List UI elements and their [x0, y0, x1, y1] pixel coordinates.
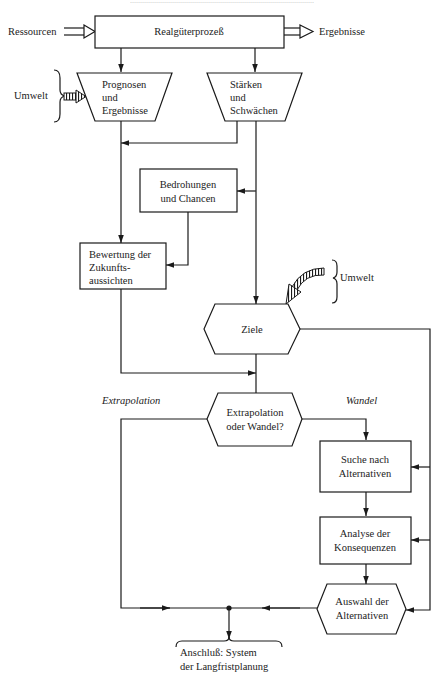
realgueterprozess-label: Realgüterprozeß [154, 26, 223, 37]
decision-shape [207, 393, 302, 446]
output-line1: Anschluß: System [180, 647, 257, 658]
curved-hatched-arrow-icon [286, 268, 324, 304]
analyse-box [320, 517, 411, 564]
output-double-arrow-icon [284, 25, 313, 38]
auswahl-shape [317, 584, 406, 634]
ergebnisse-label: Ergebnisse [319, 26, 365, 37]
ressourcen-label: Ressourcen [8, 26, 57, 37]
decision-line2: oder Wandel? [226, 421, 284, 432]
bedrohungen-line1: Bedrohungen [160, 179, 217, 190]
planning-flowchart: ........................................… [0, 0, 441, 680]
bewertung-line2: Zukunfts- [89, 262, 131, 273]
wandel-branch-label: Wandel [346, 395, 377, 406]
bewertung-line1: Bewertung der [89, 249, 152, 260]
bedrohungen-box [140, 169, 237, 212]
output-brace-icon [176, 637, 282, 647]
page-header-cut: ........................................… [130, 0, 314, 5]
prognosen-line1: Prognosen [102, 79, 147, 90]
auswahl-line2: Alternativen [336, 610, 389, 621]
suche-line1: Suche nach [341, 454, 390, 465]
bewertung-line3: aussichten [89, 275, 133, 286]
analyse-line1: Analyse der [340, 528, 391, 539]
prognosen-line2: und [102, 92, 119, 103]
brace-right-icon [332, 260, 337, 303]
auswahl-line1: Auswahl der [335, 596, 389, 607]
extrapolation-branch-label: Extrapolation [101, 395, 160, 406]
staerken-line3: Schwächen [230, 105, 279, 116]
ziele-label: Ziele [241, 324, 263, 335]
output-line2: der Langfristplanung [180, 661, 269, 672]
suche-line2: Alternativen [339, 468, 392, 479]
umwelt-right-label: Umwelt [340, 272, 374, 283]
decision-line1: Extrapolation [226, 407, 284, 418]
staerken-line1: Stärken [230, 79, 263, 90]
brace-icon [54, 70, 65, 122]
bedrohungen-line2: und Chancen [160, 193, 216, 204]
analyse-line2: Konsequenzen [334, 542, 397, 553]
suche-box [320, 441, 411, 492]
prognosen-line3: Ergebnisse [102, 105, 148, 116]
staerken-line2: und [230, 92, 247, 103]
input-double-arrow-icon [64, 25, 95, 38]
hatched-input-arrow-icon [64, 90, 86, 103]
umwelt-left-label: Umwelt [14, 90, 48, 101]
